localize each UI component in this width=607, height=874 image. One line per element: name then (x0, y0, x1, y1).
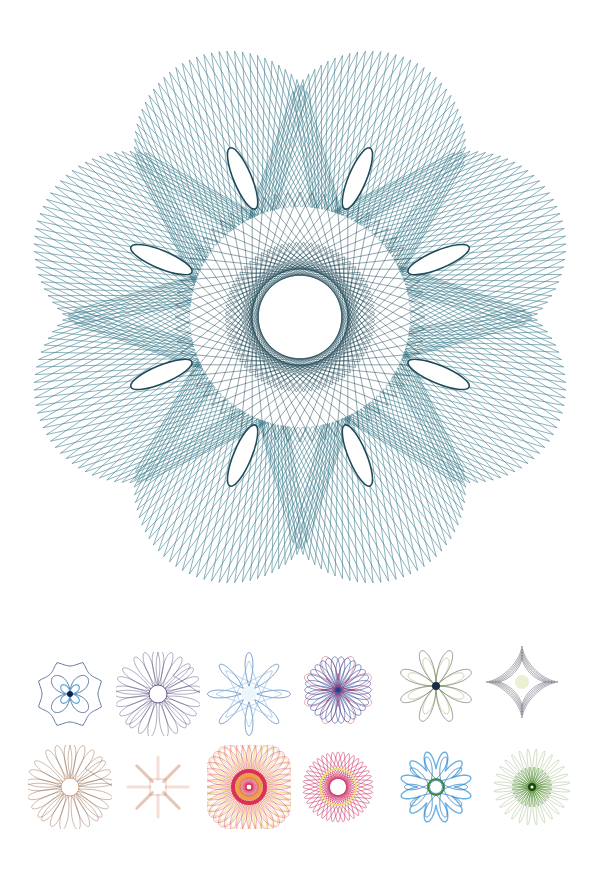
thumb-blue-green-star (394, 745, 478, 829)
string-lines (34, 51, 566, 583)
thumb-faded-orange-cross-canvas (116, 745, 200, 829)
center-hole (61, 778, 79, 796)
thumb-gray-four-point-star (480, 640, 564, 724)
center-tint (515, 675, 529, 689)
center-hole (531, 786, 534, 789)
green-core (428, 779, 444, 795)
center-hole (149, 685, 167, 703)
thumb-gray-green-flower (394, 644, 478, 728)
thumb-brown-rosette-canvas (28, 745, 112, 829)
thumb-red-yellow-ring-canvas (207, 745, 291, 829)
center-dot (67, 691, 73, 697)
thumb-pink-yellow-ring (296, 745, 380, 829)
thumb-green-sunburst (490, 745, 574, 829)
thumb-pink-blue-star (296, 648, 380, 732)
thumb-gray-green-flower-canvas (394, 644, 478, 728)
thumb-blue-cross-octagon (28, 652, 112, 736)
thumb-blue-star-rosette (207, 652, 291, 736)
thumb-brown-rosette (28, 745, 112, 829)
main-spirograph-canvas (20, 20, 580, 600)
thumb-pink-blue-star-canvas (296, 648, 380, 732)
thumb-pink-yellow-ring-canvas (296, 745, 380, 829)
yellow-band (320, 769, 356, 805)
center-dot (432, 682, 440, 690)
thumb-blue-cross-octagon-canvas (28, 652, 112, 736)
thumb-faded-orange-cross (116, 745, 200, 829)
thumb-green-sunburst-canvas (490, 745, 574, 829)
pink-ring (303, 752, 373, 822)
main-spirograph (20, 20, 580, 600)
thumb-purple-ring-rosette (116, 652, 200, 736)
red-ring (207, 745, 291, 829)
pink-core (322, 674, 355, 707)
thumb-blue-green-star-canvas (394, 745, 478, 829)
blue-rosette (305, 657, 372, 723)
blue-lobes (401, 752, 471, 822)
pink-spikes (305, 657, 372, 724)
thumb-blue-star-rosette-canvas (207, 652, 291, 736)
thumb-purple-ring-rosette-canvas (116, 652, 200, 736)
thumb-gray-four-point-star-canvas (480, 640, 564, 724)
thumb-red-yellow-ring (207, 745, 291, 829)
center-web (175, 192, 425, 442)
center-fill (241, 686, 257, 702)
